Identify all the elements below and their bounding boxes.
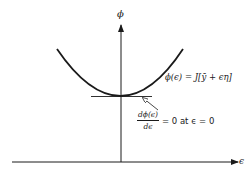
derivative-fraction: dϕ(ϵ) dϵ: [137, 110, 159, 131]
curve-equation-label: ϕ(ϵ) = J[ȳ + ϵη]: [165, 73, 232, 82]
annotation-pointer-arrow: [143, 98, 158, 110]
derivative-condition-text: = 0 at ϵ = 0: [162, 116, 214, 126]
variational-diagram: [0, 0, 250, 175]
fraction-numerator: dϕ(ϵ): [137, 110, 159, 121]
fraction-denominator: dϵ: [143, 121, 152, 131]
x-axis-label: ϵ: [239, 157, 244, 166]
y-axis-label: ϕ: [117, 9, 124, 19]
derivative-condition-label: dϕ(ϵ) dϵ = 0 at ϵ = 0: [137, 110, 214, 131]
